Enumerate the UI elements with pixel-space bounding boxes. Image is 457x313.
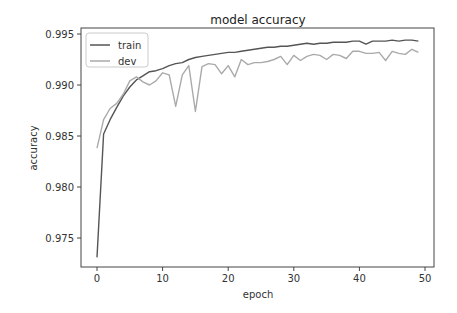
y-tick-label: 0.985 — [45, 131, 74, 142]
legend-label-train: train — [118, 40, 141, 51]
y-axis: 0.9750.9800.9850.9900.995 — [45, 29, 81, 244]
y-tick-label: 0.995 — [45, 29, 74, 40]
legend-label-dev: dev — [118, 56, 137, 67]
y-axis-label: accuracy — [28, 125, 39, 170]
y-tick-label: 0.975 — [45, 233, 74, 244]
y-tick-label: 0.980 — [45, 182, 74, 193]
x-tick-label: 10 — [156, 273, 169, 284]
chart-title: model accuracy — [210, 13, 305, 27]
x-axis-label: epoch — [243, 289, 273, 300]
accuracy-chart: model accuracy 01020304050 0.9750.9800.9… — [0, 0, 457, 313]
x-tick-label: 0 — [94, 273, 100, 284]
x-tick-label: 30 — [287, 273, 300, 284]
x-tick-label: 50 — [419, 273, 432, 284]
legend: traindev — [86, 33, 148, 67]
x-tick-label: 40 — [353, 273, 366, 284]
x-axis: 01020304050 — [94, 267, 432, 284]
y-tick-label: 0.990 — [45, 80, 74, 91]
x-tick-label: 20 — [222, 273, 235, 284]
